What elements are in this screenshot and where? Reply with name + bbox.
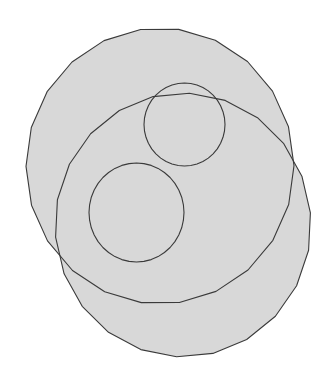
diagram-canvas xyxy=(0,0,327,378)
fill-layer xyxy=(26,29,310,356)
